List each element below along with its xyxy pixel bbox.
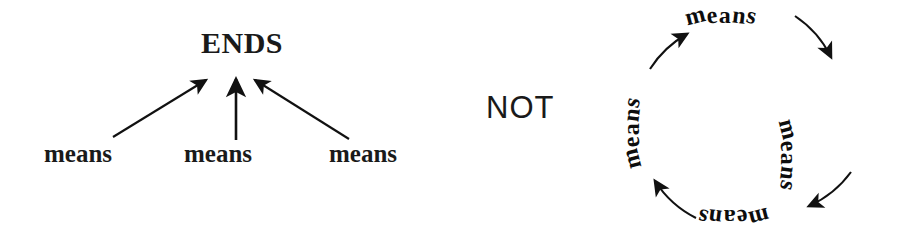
arc-bottom-to-left: [655, 181, 696, 218]
means-label-middle: means: [184, 141, 252, 166]
arc-top-to-right: [795, 16, 831, 57]
means-to-ends-hierarchy: ENDS means means means: [0, 0, 455, 241]
arrow-right: [255, 80, 349, 139]
ends-label: ENDS: [196, 28, 288, 58]
circular-means-regress: means means means means: [600, 0, 909, 241]
arc-right-to-bottom: [809, 172, 851, 206]
not-label: NOT: [486, 92, 554, 123]
means-label-right: means: [329, 141, 397, 166]
circle-means-top: means: [688, 3, 753, 27]
arrow-left: [113, 80, 206, 137]
circle-means-bottom: means: [701, 206, 766, 230]
figure-canvas: ENDS means means means NOT means means: [0, 0, 909, 241]
circle-means-right: means: [777, 122, 801, 187]
means-label-left: means: [44, 141, 112, 166]
circle-means-left: means: [619, 101, 643, 166]
arc-left-to-top: [650, 34, 687, 69]
